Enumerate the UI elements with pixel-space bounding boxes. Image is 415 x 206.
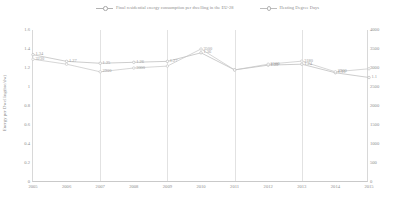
legend-item-energy[interactable]: Final residential energy consumption per… (96, 5, 234, 10)
y-axis-right-tick-label: 2000 (370, 104, 379, 109)
x-axis-tick-label: 2015 (364, 185, 373, 190)
y-axis-right-tick-label: 500 (370, 161, 377, 166)
data-point-marker (368, 68, 371, 71)
x-axis-tick-label: 2012 (264, 185, 273, 190)
data-point-label: 2900 (338, 69, 347, 73)
data-point-marker (133, 67, 136, 70)
y-axis-left-tick-label: 1 (28, 85, 30, 90)
y-axis-left-tick-label: 1.2 (24, 66, 30, 71)
data-point-marker (65, 63, 68, 65)
x-axis-tick-label: 2006 (62, 185, 71, 190)
y-axis-left-tick-label: 1.4 (24, 47, 30, 52)
data-point-label: 1.25 (103, 61, 111, 65)
y-axis-right-tick-label: 3500 (370, 47, 379, 52)
series-lines (33, 30, 369, 182)
x-axis-tick-label: 2011 (230, 185, 239, 190)
data-point-label: 3100 (271, 62, 280, 66)
data-point-marker (166, 60, 169, 63)
data-point-marker (301, 63, 304, 65)
x-axis-tick-label: 2010 (196, 185, 205, 190)
data-point-label: 1.27 (69, 59, 77, 63)
y-axis-left-title: Energy per Dwelling(toe/dw) (2, 75, 7, 131)
series-line (33, 53, 369, 78)
data-point-label: 1.1 (371, 75, 377, 79)
legend-marker-line-icon (260, 5, 277, 10)
y-axis-left-tick-label: 0.4 (24, 142, 30, 147)
x-axis-tick-label: 2005 (28, 185, 37, 190)
data-point-marker (368, 76, 371, 79)
data-point-marker (200, 52, 203, 55)
y-axis-left-tick-label: 1.6 (24, 28, 30, 33)
data-point-label: 3230 (35, 57, 44, 61)
data-point-marker (334, 71, 337, 74)
data-point-marker (99, 62, 102, 65)
data-point-marker (32, 58, 35, 61)
data-point-marker (65, 60, 68, 63)
legend-item-hdd[interactable]: Heating Degree Days (260, 5, 319, 10)
data-point-marker (200, 48, 203, 51)
data-point-marker (301, 60, 304, 63)
y-axis-left-tick-label: 0.2 (24, 161, 30, 166)
data-point-marker (99, 71, 102, 74)
x-axis-tick-label: 2009 (163, 185, 172, 190)
data-point-label: 1.27 (170, 59, 178, 63)
data-point-label: 3180 (304, 59, 313, 63)
y-axis-right-tick-label: 2500 (370, 85, 379, 90)
y-axis-left-tick-label: 0.6 (24, 123, 30, 128)
y-axis-right-tick-label: 3000 (370, 66, 379, 71)
y-axis-right-tick-label: 4000 (370, 28, 379, 33)
x-axis-tick-label: 2014 (331, 185, 340, 190)
data-point-marker (32, 53, 35, 56)
data-point-marker (133, 61, 136, 64)
chart-figure: Final residential energy consumption per… (0, 0, 415, 206)
legend-marker-line-icon (96, 5, 113, 10)
data-point-marker (233, 69, 236, 72)
data-point-label: 3500 (203, 46, 212, 50)
legend-label-hdd: Heating Degree Days (280, 5, 319, 10)
data-point-label: 2900 (103, 69, 112, 73)
data-point-label: 3000 (136, 65, 145, 69)
legend-label-energy: Final residential energy consumption per… (116, 5, 234, 10)
data-point-marker (166, 65, 169, 68)
plot-area: 00.20.40.60.811.21.41.6 0500100015002000… (32, 30, 368, 182)
x-axis-tick-label: 2008 (129, 185, 138, 190)
x-axis-tick-label: 2013 (297, 185, 306, 190)
y-axis-right-tick-label: 1000 (370, 142, 379, 147)
data-point-marker (267, 63, 270, 65)
data-point-label: 1.36 (203, 50, 211, 54)
chart-legend: Final residential energy consumption per… (0, 5, 415, 10)
x-axis-tick-label: 2007 (96, 185, 105, 190)
y-axis-left-tick-label: 0.8 (24, 104, 30, 109)
y-axis-right-tick-label: 1500 (370, 123, 379, 128)
